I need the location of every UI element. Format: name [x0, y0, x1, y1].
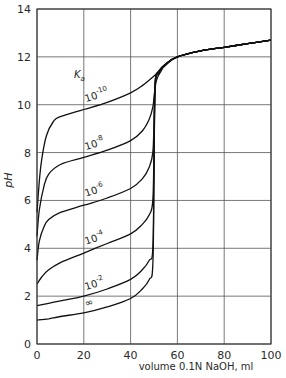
x-tick-label: 40	[124, 349, 138, 362]
curve-label: 10-2	[83, 274, 106, 292]
y-tick-label: 0	[24, 338, 31, 351]
curve-label: ∞	[83, 296, 94, 309]
y-axis-label: pH	[2, 172, 15, 188]
curve-label: 10-6	[83, 180, 106, 199]
x-tick-label: 100	[261, 349, 282, 362]
y-tick-label: 10	[17, 99, 31, 112]
curve-label: 10-10	[83, 84, 110, 104]
legend-title: Ka	[74, 69, 85, 83]
y-tick-label: 8	[24, 147, 31, 160]
curve-label: 10-8	[83, 134, 106, 152]
y-tick-label: 12	[17, 51, 31, 64]
y-tick-label: 2	[24, 290, 31, 303]
y-tick-label: 4	[24, 242, 31, 255]
x-tick-label: 20	[77, 349, 91, 362]
y-tick-label: 14	[17, 3, 31, 16]
curves	[37, 40, 271, 320]
curve-labels: ∞10-210-410-610-810-10	[83, 84, 110, 308]
y-tick-label: 6	[24, 194, 31, 207]
curve-label: 10-4	[83, 228, 106, 247]
titration-chart: 02040608010002468101214 ∞10-210-410-610-…	[0, 0, 286, 378]
x-axis-label: volume 0.1N NaOH, ml	[139, 361, 254, 372]
x-tick-label: 0	[34, 349, 41, 362]
